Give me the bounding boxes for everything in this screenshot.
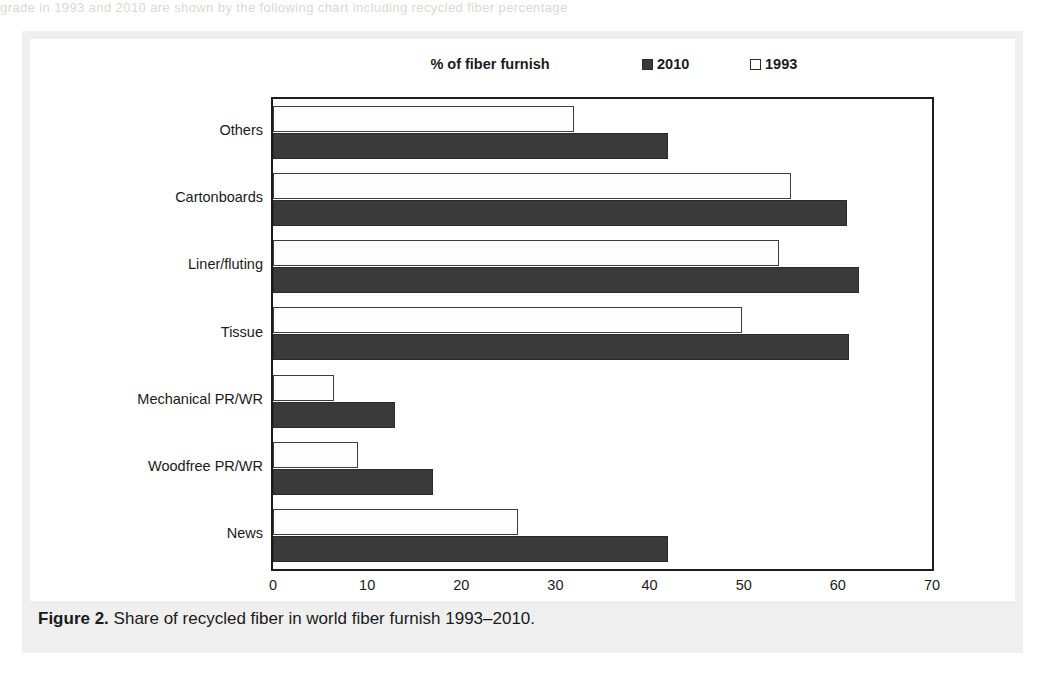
bar-group <box>273 166 932 233</box>
figure-panel: % of fiber furnish 2010 1993 OthersCarto… <box>22 31 1023 653</box>
bar-2010[interactable] <box>273 133 668 159</box>
bar-group <box>273 368 932 435</box>
legend-item-2010[interactable]: 2010 <box>642 56 689 72</box>
bar-2010[interactable] <box>273 334 849 360</box>
category-label: Mechanical PR/WR <box>33 391 263 407</box>
bar-1993[interactable] <box>273 173 791 199</box>
category-label: News <box>33 525 263 541</box>
chart-card: % of fiber furnish 2010 1993 OthersCarto… <box>30 39 1015 601</box>
bar-1993[interactable] <box>273 375 334 401</box>
x-tick-label: 10 <box>359 577 375 593</box>
cut-off-body-text: grade in 1993 and 2010 are shown by the … <box>0 0 1045 16</box>
x-tick-label: 0 <box>269 577 277 593</box>
bar-group <box>273 435 932 502</box>
category-label: Cartonboards <box>33 189 263 205</box>
bar-2010[interactable] <box>273 536 668 562</box>
bar-2010[interactable] <box>273 200 847 226</box>
figure-caption-text: Share of recycled fiber in world fiber f… <box>109 609 535 628</box>
bar-1993[interactable] <box>273 240 779 266</box>
bar-2010[interactable] <box>273 267 859 293</box>
chart-legend: 2010 1993 <box>630 56 960 76</box>
bar-1993[interactable] <box>273 106 574 132</box>
category-label: Tissue <box>33 324 263 340</box>
x-tick-label: 20 <box>453 577 469 593</box>
bar-1993[interactable] <box>273 442 358 468</box>
chart-title: % of fiber furnish <box>340 56 640 72</box>
figure-caption-label: Figure 2. <box>38 609 109 628</box>
x-axis-ticks: 010203040506070 <box>271 571 934 601</box>
bar-group <box>273 300 932 367</box>
plot-area <box>271 97 934 571</box>
legend-label-1993: 1993 <box>765 56 797 72</box>
category-label: Others <box>33 122 263 138</box>
bars-container <box>273 99 932 569</box>
category-axis-labels: OthersCartonboardsLiner/flutingTissueMec… <box>30 97 263 571</box>
x-tick-label: 40 <box>641 577 657 593</box>
bar-2010[interactable] <box>273 402 395 428</box>
bar-2010[interactable] <box>273 469 433 495</box>
legend-item-1993[interactable]: 1993 <box>750 56 797 72</box>
x-tick-label: 50 <box>736 577 752 593</box>
bar-1993[interactable] <box>273 307 742 333</box>
x-tick-label: 60 <box>830 577 846 593</box>
bar-group <box>273 99 932 166</box>
category-label: Liner/fluting <box>33 256 263 272</box>
bar-group <box>273 502 932 569</box>
scanned-page: grade in 1993 and 2010 are shown by the … <box>0 0 1045 673</box>
category-label: Woodfree PR/WR <box>33 458 263 474</box>
x-tick-label: 70 <box>924 577 940 593</box>
legend-label-2010: 2010 <box>657 56 689 72</box>
figure-caption: Figure 2. Share of recycled fiber in wor… <box>38 609 998 629</box>
legend-swatch-1993-icon <box>750 59 761 70</box>
x-tick-label: 30 <box>547 577 563 593</box>
bar-1993[interactable] <box>273 509 518 535</box>
bar-group <box>273 233 932 300</box>
legend-swatch-2010-icon <box>642 59 653 70</box>
